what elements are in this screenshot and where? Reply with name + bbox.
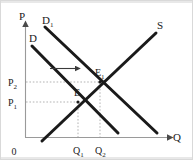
equilibrium-initial-dot	[76, 100, 79, 103]
supply-demand-figure: P Q 0 S D D1 E E1 P2 P1 Q1 Q2	[0, 0, 193, 160]
equilibrium-new-dot	[98, 80, 101, 83]
quantity-axis-label: Q	[173, 131, 181, 143]
supply-curve-label: S	[157, 19, 163, 31]
supply-curve	[42, 33, 156, 141]
chart-canvas: P Q 0 S D D1 E E1 P2 P1 Q1 Q2	[0, 0, 193, 160]
price-tick-p2: P2	[8, 77, 18, 91]
equilibrium-markers	[76, 80, 101, 103]
demand-curve-label: D	[29, 32, 37, 44]
guide-lines	[26, 82, 100, 139]
equilibrium-initial-label: E	[74, 87, 80, 98]
quantity-tick-q1: Q1	[73, 145, 84, 159]
curves	[32, 27, 157, 141]
price-axis-label: P	[19, 10, 25, 22]
quantity-tick-q2: Q2	[95, 145, 106, 159]
price-tick-p1: P1	[8, 97, 18, 111]
origin-label: 0	[12, 146, 17, 157]
